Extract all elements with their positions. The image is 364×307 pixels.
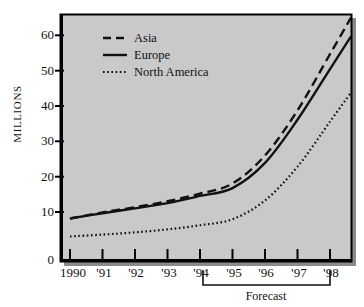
x-tick-label-95: '95 [226,266,241,279]
x-tick-label-1990: 1990 [60,266,86,279]
x-tick-label-98: '98 [323,266,338,279]
x-tick-label-93: '93 [161,266,176,279]
legend-item-europe: Europe [102,47,242,63]
x-tick-label-97: '97 [291,266,306,279]
x-tick-label-92: '92 [128,266,143,279]
forecast-label: Forecast [246,289,287,304]
legend-swatch-dotted-icon [102,66,128,78]
legend-label-north-america: North America [134,65,209,80]
legend-label-europe: Europe [134,48,170,63]
x-tick-label-91: '91 [96,266,111,279]
x-tick-label-94: '94 [193,266,208,279]
legend-swatch-solid-icon [102,49,128,61]
legend-item-asia: Asia [102,30,242,46]
legend-swatch-dashed-icon [102,32,128,44]
chart-legend: Asia Europe North America [102,30,242,81]
x-tick-label-96: '96 [258,266,273,279]
legend-label-asia: Asia [134,31,157,46]
legend-item-north-america: North America [102,64,242,80]
chart-figure: MILLIONS 60 50 40 30 20 10 0 1990 '91 '9… [0,0,364,307]
